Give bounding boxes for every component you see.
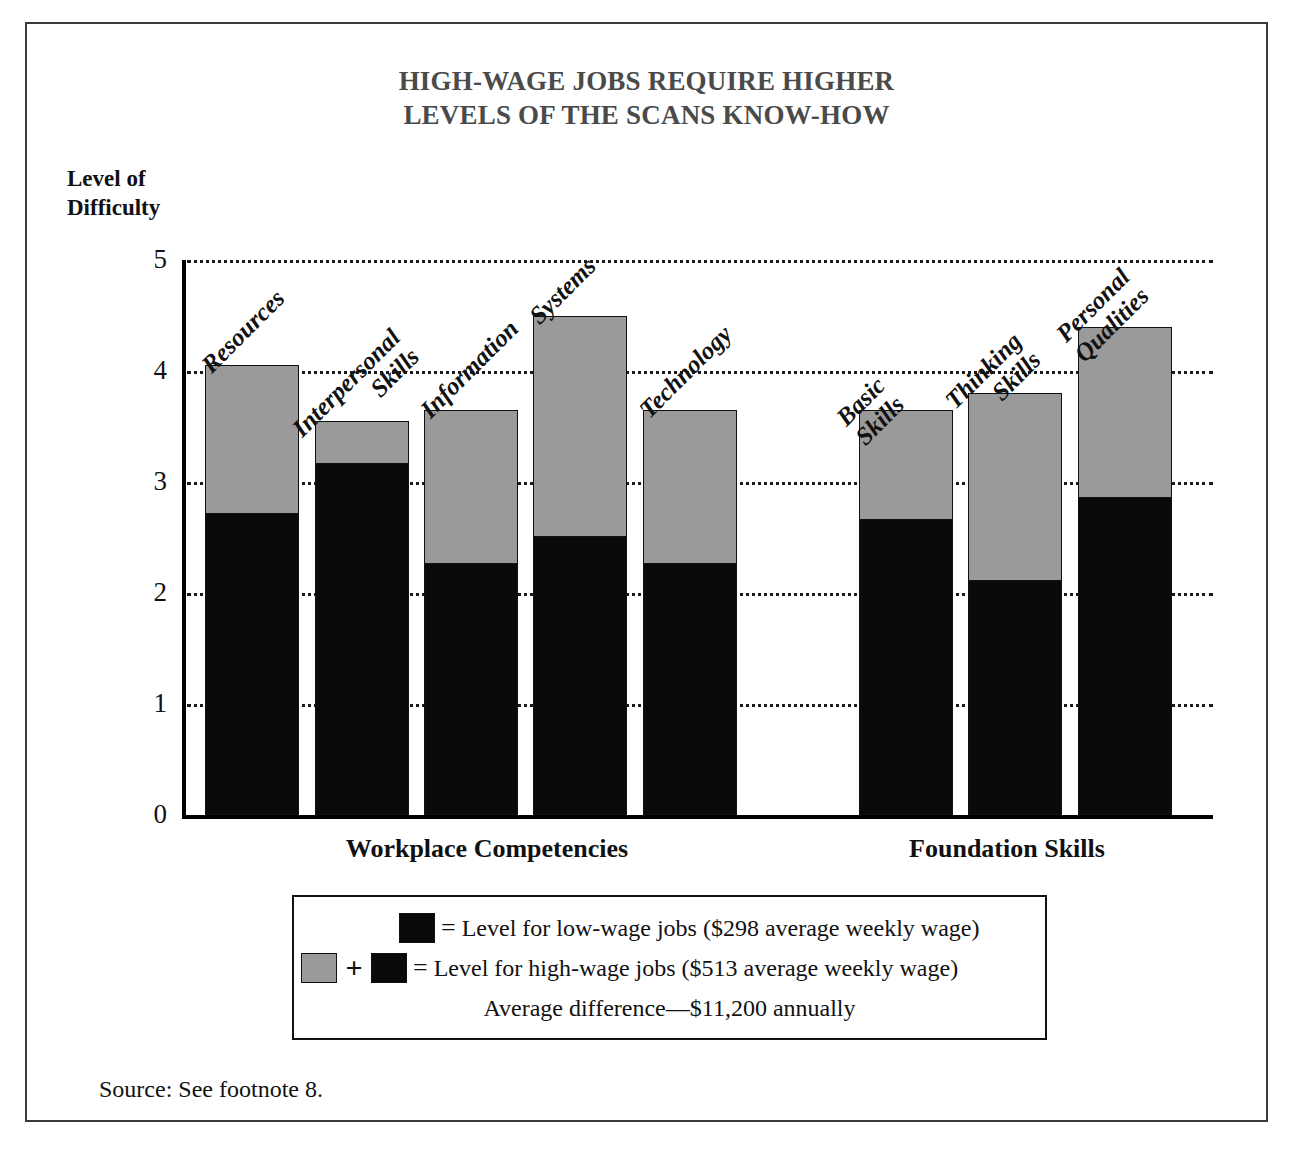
y-tick-5: 5 xyxy=(123,246,167,273)
y-axis-line xyxy=(182,260,186,819)
bar-segment-low-wage xyxy=(534,536,626,815)
legend-plus-sign: + xyxy=(337,954,371,982)
legend-label-high-wage: Level for high-wage jobs ($513 average w… xyxy=(434,954,958,982)
legend-equals-1: = xyxy=(435,914,462,942)
bar-segment-low-wage xyxy=(1079,497,1171,814)
bar-information[interactable] xyxy=(424,410,518,815)
bar-basic-skills[interactable] xyxy=(859,410,953,815)
bar-technology[interactable] xyxy=(643,410,737,815)
bar-segment-low-wage xyxy=(206,513,298,814)
legend-swatch-black-2-icon xyxy=(371,953,407,983)
bar-segment-low-wage xyxy=(969,580,1061,814)
category-label-resources: Resources xyxy=(196,285,290,379)
y-tick-3: 3 xyxy=(123,468,167,495)
legend-swatch-black-icon xyxy=(399,913,435,943)
legend-average-difference: Average difference—$11,200 annually xyxy=(294,995,1045,1022)
bar-thinking-skills[interactable] xyxy=(968,393,1062,815)
group-label-foundation-skills: Foundation Skills xyxy=(827,834,1187,864)
bar-interpersonal-skills[interactable] xyxy=(315,421,409,815)
group-label-workplace-competencies: Workplace Competencies xyxy=(257,834,717,864)
legend-row-high-wage: + = Level for high-wage jobs ($513 avera… xyxy=(301,953,958,983)
y-tick-4: 4 xyxy=(123,357,167,384)
legend-row-low-wage: = Level for low-wage jobs ($298 average … xyxy=(399,913,979,943)
bar-systems[interactable] xyxy=(533,316,627,816)
y-tick-1: 1 xyxy=(123,690,167,717)
bar-resources[interactable] xyxy=(205,365,299,815)
chart-frame: HIGH-WAGE JOBS REQUIRE HIGHER LEVELS OF … xyxy=(25,22,1268,1122)
bar-segment-low-wage xyxy=(644,563,736,814)
bar-personal-qualities[interactable] xyxy=(1078,327,1172,815)
bar-segment-low-wage xyxy=(425,563,517,814)
legend-box: = Level for low-wage jobs ($298 average … xyxy=(292,895,1047,1040)
bar-segment-low-wage xyxy=(316,463,408,814)
source-note: Source: See footnote 8. xyxy=(99,1076,323,1103)
y-tick-0: 0 xyxy=(123,801,167,828)
bar-segment-low-wage xyxy=(860,519,952,814)
x-axis-line xyxy=(182,815,1213,819)
legend-label-low-wage: Level for low-wage jobs ($298 average we… xyxy=(462,914,980,942)
legend-swatch-gray-icon xyxy=(301,953,337,983)
y-tick-2: 2 xyxy=(123,579,167,606)
legend-equals-2: = xyxy=(407,954,434,982)
gridline-5 xyxy=(187,260,1213,263)
category-label-information: Information xyxy=(415,314,523,422)
